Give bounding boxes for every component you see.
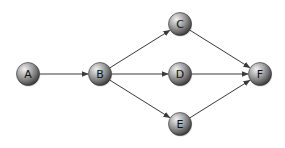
node-b: B <box>89 63 113 87</box>
node-label: E <box>177 118 184 131</box>
node-a: A <box>17 63 41 87</box>
edge-b-e <box>110 80 170 118</box>
node-f: F <box>249 63 273 87</box>
edges-layer <box>40 30 250 118</box>
edge-c-f <box>190 30 250 68</box>
flow-diagram: ABCDEF <box>0 0 285 148</box>
node-label: F <box>257 68 263 81</box>
node-label: D <box>176 68 184 81</box>
node-e: E <box>169 113 193 137</box>
node-c: C <box>169 13 193 37</box>
node-label: A <box>24 68 32 81</box>
edge-b-c <box>110 30 170 68</box>
node-label: C <box>176 18 184 31</box>
edge-e-f <box>190 80 250 118</box>
node-label: B <box>96 68 104 81</box>
node-d: D <box>169 63 193 87</box>
